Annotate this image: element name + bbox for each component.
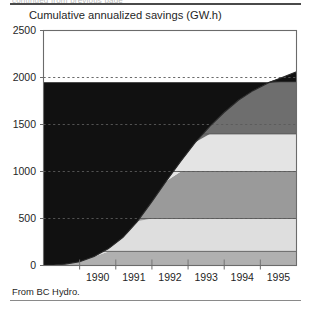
figure-container: continued from previous page Cumulative … bbox=[0, 0, 311, 309]
source-note: From BC Hydro. bbox=[12, 286, 80, 297]
ytick-label-2500: 2500 bbox=[0, 24, 36, 36]
chart-plot-area bbox=[0, 0, 311, 309]
ytick-label-1000: 1000 bbox=[0, 165, 36, 177]
xtick-label-1995: 1995 bbox=[256, 271, 300, 283]
ytick-label-500: 500 bbox=[0, 212, 36, 224]
ytick-label-1500: 1500 bbox=[0, 118, 36, 130]
chart-svg bbox=[0, 0, 311, 309]
ytick-label-2000: 2000 bbox=[0, 71, 36, 83]
figure-bottom-rule bbox=[10, 300, 301, 301]
ytick-label-0: 0 bbox=[0, 259, 36, 271]
